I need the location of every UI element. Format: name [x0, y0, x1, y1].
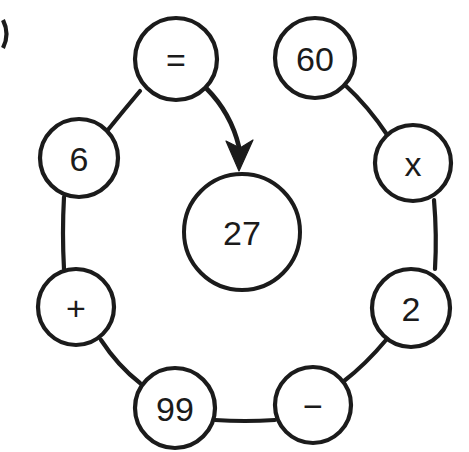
ring-node-equals[interactable]: = [135, 18, 217, 100]
arrow-equals-to-center [206, 88, 253, 171]
center-node[interactable]: 27 [184, 174, 300, 290]
ring-node-2[interactable]: 2 [372, 269, 450, 347]
connection-arc [434, 200, 436, 269]
node-label: − [303, 387, 323, 425]
ring-node-99[interactable]: 99 [135, 368, 215, 448]
connection-arc [344, 340, 386, 381]
ring-node-6[interactable]: 6 [40, 119, 118, 197]
node-label: 99 [156, 390, 194, 428]
arrow-shaft [206, 88, 239, 147]
connection-arc [215, 420, 275, 421]
ring-node-minus[interactable]: − [275, 367, 351, 443]
ring-node-x[interactable]: x [375, 125, 451, 201]
center-node-label: 27 [223, 214, 261, 252]
ring-node-60[interactable]: 60 [275, 18, 355, 98]
node-label: x [405, 145, 422, 183]
connection-arc [345, 85, 388, 136]
ring-node-plus[interactable]: + [38, 269, 114, 345]
node-label: 2 [402, 290, 421, 328]
figure-canvas: 27 = 60 x 2 − [0, 0, 469, 452]
node-label: = [166, 41, 186, 79]
node-label: 6 [70, 140, 89, 178]
cropped-neighbor-circle-icon [3, 20, 7, 48]
node-label: + [66, 289, 86, 327]
node-label: 60 [296, 40, 334, 78]
connection-arc [63, 197, 64, 269]
connection-arc [107, 91, 140, 131]
circular-token-diagram: 27 = 60 x 2 − [0, 0, 469, 452]
connection-arc [101, 340, 140, 383]
